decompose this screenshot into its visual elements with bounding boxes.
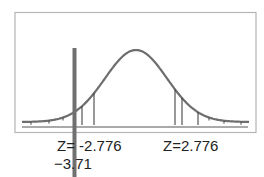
left-critical-label: Z= -2.776	[57, 138, 122, 153]
right-critical-label: Z=2.776	[163, 138, 218, 153]
distribution-curve	[22, 50, 249, 122]
normal-curve-chart	[0, 0, 264, 177]
chart-frame	[15, 13, 256, 133]
axis-ticks	[31, 118, 241, 125]
test-statistic-label: −3.71	[54, 156, 92, 171]
